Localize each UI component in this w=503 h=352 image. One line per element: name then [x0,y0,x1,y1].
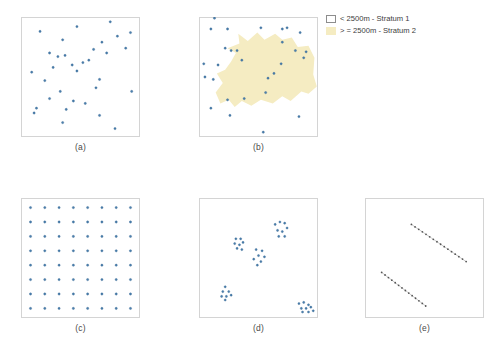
sample-point [443,246,445,248]
sample-point [129,235,131,237]
sample-point [300,307,302,309]
sample-point [87,235,89,237]
sample-point [307,311,309,313]
sample-point [286,27,288,29]
sample-point [210,28,212,30]
sample-point [131,90,133,92]
sample-point [404,290,406,292]
sample-point [129,221,131,223]
sample-point [64,54,66,56]
sample-point [411,295,413,297]
sample-point [129,250,131,252]
legend-swatch-stratum-2-icon [326,27,336,35]
sample-point [62,39,64,41]
sample-point [44,250,46,252]
sample-point [29,278,31,280]
sample-point [299,31,301,33]
sample-point [101,293,103,295]
sample-point [101,250,103,252]
sample-point [401,287,403,289]
legend-item-stratum-2: > = 2500m - Stratum 2 [326,25,496,36]
sample-point [284,235,286,237]
sample-point [44,307,46,309]
sample-point [44,235,46,237]
sample-point [263,256,265,258]
sample-point [125,47,127,49]
sample-point [236,49,238,51]
sample-point [462,258,464,260]
sample-point [242,241,244,243]
sample-point [225,295,227,297]
sample-point [57,55,59,57]
sample-point [256,264,258,266]
sample-point [59,90,61,92]
stratum-legend: < 2500m - Stratum 1 > = 2500m - Stratum … [326,13,496,37]
sample-point [48,52,50,54]
sample-point [432,238,434,240]
sample-point [294,49,296,51]
sample-point [115,221,117,223]
sample-point [280,63,282,65]
sample-point [101,41,103,43]
sample-point [418,300,420,302]
sample-point [257,255,259,257]
sample-point [286,227,288,229]
sample-point [72,293,74,295]
sample-point [58,278,60,280]
sample-point [72,264,74,266]
panel-a-label: (a) [21,142,140,152]
sample-point [115,206,117,208]
sample-point [101,264,103,266]
sample-point [58,235,60,237]
sample-point [76,70,78,72]
panel-d-label: (d) [199,323,318,333]
sample-point [72,250,74,252]
sample-point [238,244,240,246]
panel-b-label: (b) [199,142,318,152]
sample-point [305,307,307,309]
transect-line-1 [411,224,466,261]
sample-point [29,221,31,223]
sample-point [44,206,46,208]
sample-point [114,127,116,129]
panel-c-systematic [21,198,140,318]
sample-point [52,66,54,68]
sample-point [84,102,86,104]
sample-point [58,293,60,295]
sample-point [116,35,118,37]
sample-point [44,264,46,266]
sample-point [29,307,31,309]
sample-point [72,235,74,237]
sample-point [87,206,89,208]
sample-point [279,221,281,223]
sample-point [87,264,89,266]
sample-point [298,115,300,117]
sample-point [261,250,263,252]
panel-e-scatter-plot [365,198,484,318]
stratum-2-region [216,33,317,107]
sample-point [44,278,46,280]
sample-point [213,17,215,19]
sample-point [281,41,283,43]
sample-point [388,277,390,279]
sample-point [217,64,219,66]
sample-point [87,221,89,223]
sample-point [255,249,257,251]
sample-point [87,278,89,280]
sample-point [273,72,275,74]
sample-point [129,307,131,309]
sample-point [29,293,31,295]
sample-point [307,304,309,306]
sample-point [76,25,78,27]
sample-point [260,27,262,29]
sample-point [284,222,286,224]
sample-point [240,238,242,240]
sample-point [221,295,223,297]
sample-point [129,278,131,280]
sample-point [241,249,243,251]
sample-point [465,261,467,263]
sample-point [236,247,238,249]
sample-point [106,52,108,54]
sample-point [115,293,117,295]
sample-point [408,292,410,294]
